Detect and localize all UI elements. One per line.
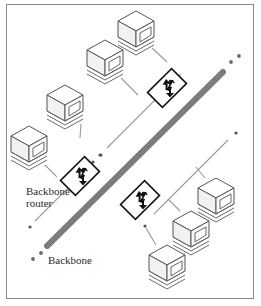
workstation-top-right-drop-line bbox=[152, 48, 167, 62]
backbone-end-dot-1 bbox=[229, 60, 233, 64]
workstation-far-left bbox=[11, 126, 47, 170]
backbone-routers-group bbox=[61, 69, 187, 220]
backbone-router-label-line1: Backbone bbox=[26, 185, 70, 197]
workstation-top-left-drop-line bbox=[121, 78, 138, 95]
backbone-router-label-line2: router bbox=[26, 198, 70, 210]
workstation-right-top-drop-line bbox=[196, 167, 205, 178]
branch-line-left-dot-2 bbox=[28, 225, 31, 228]
workstation-far-left-drop-line bbox=[45, 165, 57, 177]
backbone-end-dot-2 bbox=[237, 54, 241, 58]
workstation-right-low-drop-line bbox=[146, 228, 156, 245]
branch-line-bottom-dot-1 bbox=[234, 131, 237, 134]
backbone-router-label: Backbone router bbox=[26, 186, 70, 209]
backbone-end-dot-4 bbox=[31, 257, 35, 261]
workstation-upper-left bbox=[47, 85, 83, 129]
branch-line-top-dot-2 bbox=[91, 160, 94, 163]
branch-line-bottom-dot-2 bbox=[143, 224, 146, 227]
backbone-label: Backbone bbox=[48, 255, 92, 267]
backbone-end-dot-3 bbox=[39, 251, 43, 255]
workstation-right-mid bbox=[173, 211, 209, 255]
workstation-right-mid-drop-line bbox=[168, 199, 180, 211]
workstation-right-low bbox=[149, 245, 185, 289]
workstation-top-right bbox=[118, 11, 154, 55]
workstation-top-left bbox=[87, 40, 123, 84]
network-topology-svg: .trunk { stroke: #7c7c7c; stroke-width: … bbox=[0, 0, 261, 306]
diagram-canvas: .trunk { stroke: #7c7c7c; stroke-width: … bbox=[0, 0, 261, 306]
workstation-right-top bbox=[198, 178, 234, 222]
workstation-upper-left-drop-line bbox=[80, 124, 81, 138]
branch-line-left-dot-1 bbox=[99, 153, 102, 156]
